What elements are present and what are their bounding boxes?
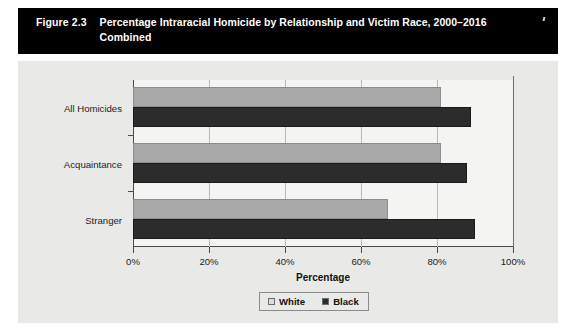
legend-label-white: White (279, 296, 305, 307)
y-axis-label-acquaintance: Acquaintance (64, 159, 122, 170)
bar-black-stranger (133, 219, 475, 239)
chart-legend: White Black (259, 292, 369, 311)
bar-white-stranger (133, 199, 388, 219)
y-axis-label-stranger: Stranger (85, 215, 122, 226)
legend-swatch-black-icon (322, 298, 329, 305)
legend-label-black: Black (333, 296, 359, 307)
x-axis-tick-0 (133, 247, 134, 253)
y-axis-tick (128, 191, 133, 192)
y-axis-tick (128, 135, 133, 136)
x-axis-label-80: 80% (427, 256, 446, 267)
x-axis-label-20: 20% (199, 256, 218, 267)
x-axis-tick-80 (437, 247, 438, 253)
chart-plot-area: All Homicides Acquaintance Stranger 0% 2… (133, 80, 513, 247)
x-axis-tick-20 (209, 247, 210, 253)
figure-number: Figure 2.3 (36, 15, 100, 30)
legend-swatch-white-icon (268, 298, 275, 305)
plot-right-border (513, 76, 514, 247)
legend-item-white: White (268, 296, 305, 307)
x-axis-tick-100 (513, 247, 514, 253)
title-row: Figure 2.3 Percentage Intraracial Homici… (36, 15, 558, 45)
figure-title: Percentage Intraracial Homicide by Relat… (100, 15, 520, 45)
x-axis-label-40: 40% (275, 256, 294, 267)
bar-white-all-homicides (133, 87, 441, 107)
figure-title-bar: Figure 2.3 Percentage Intraracial Homici… (18, 8, 558, 54)
bar-black-all-homicides (133, 107, 471, 127)
legend-item-black: Black (322, 296, 359, 307)
bar-white-acquaintance (133, 143, 441, 163)
x-axis-tick-60 (361, 247, 362, 253)
x-axis-label-0: 0% (126, 256, 140, 267)
x-axis-tick-40 (285, 247, 286, 253)
x-axis-title: Percentage (133, 272, 513, 283)
figure-panel: All Homicides Acquaintance Stranger 0% 2… (18, 61, 558, 323)
x-axis-label-60: 60% (351, 256, 370, 267)
bar-black-acquaintance (133, 163, 467, 183)
y-axis-label-all-homicides: All Homicides (64, 103, 122, 114)
x-axis-label-100: 100% (501, 256, 526, 267)
